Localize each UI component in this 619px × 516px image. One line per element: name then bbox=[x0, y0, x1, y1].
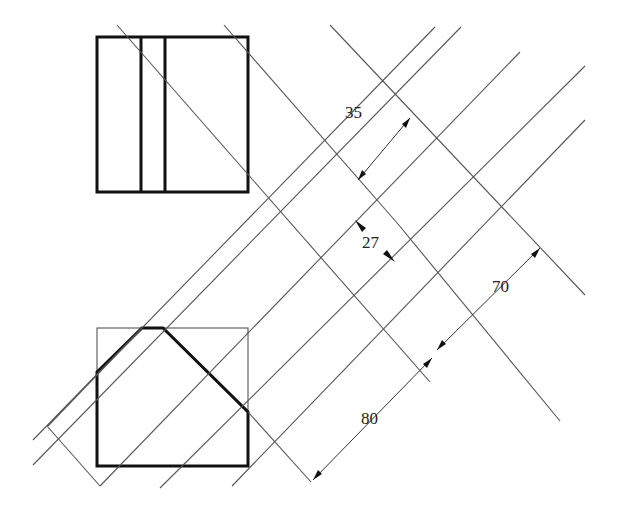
front-view bbox=[97, 328, 248, 466]
dimension-35 bbox=[358, 118, 410, 180]
dimension-label-70: 70 bbox=[492, 278, 509, 295]
dimension-label-27: 27 bbox=[362, 234, 379, 251]
top-view bbox=[97, 37, 248, 192]
falling-lines bbox=[47, 25, 585, 486]
drawing-canvas bbox=[0, 0, 619, 516]
top-view-outline bbox=[97, 37, 248, 192]
dimension-label-80: 80 bbox=[361, 410, 378, 427]
rising-lines bbox=[33, 27, 585, 488]
front-view-pentagon bbox=[97, 328, 248, 466]
dimension-label-35: 35 bbox=[345, 104, 362, 121]
